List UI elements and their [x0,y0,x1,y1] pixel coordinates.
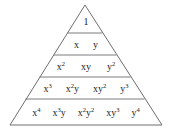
triangle-outline-svg [0,0,172,132]
triangle-outline [10,5,162,125]
pyramid-diagram: 1 x y x2 xy y2 x3 [0,0,172,132]
